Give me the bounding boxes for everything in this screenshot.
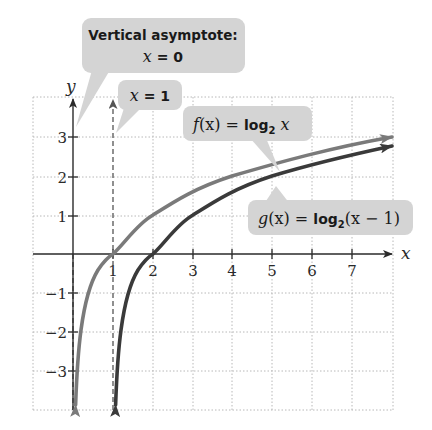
svg-text:−2: −2	[45, 324, 67, 342]
x-tick-labels: 1 2 3 4 5 6 7	[108, 262, 357, 280]
svg-text:2: 2	[57, 169, 67, 187]
svg-text:3: 3	[57, 129, 67, 147]
svg-text:1: 1	[57, 208, 67, 226]
x-axis-label: x	[401, 243, 411, 263]
callout-x1-equation: x = 1	[130, 86, 170, 105]
svg-text:4: 4	[227, 262, 237, 280]
callout-asymptote-title: Vertical asymptote:	[88, 27, 237, 43]
svg-text:−1: −1	[45, 285, 67, 303]
callout-g-equation: g(x) = log2(x − 1)	[258, 209, 400, 230]
y-axis-label: y	[65, 76, 76, 96]
callout-asymptote-equation: x = 0	[143, 47, 184, 66]
svg-text:5: 5	[267, 262, 277, 280]
svg-text:7: 7	[347, 262, 357, 280]
callout-g-label: g(x) = log2(x − 1)	[248, 186, 413, 235]
callout-x-equals-1: x = 1	[116, 80, 182, 133]
svg-text:2: 2	[148, 262, 158, 280]
svg-text:3: 3	[188, 262, 198, 280]
log-function-graph: x y 1 2 3 4 5 6 7 −3 −2 −1 1 2 3	[0, 0, 432, 430]
y-tick-labels: −3 −2 −1 1 2 3	[45, 129, 67, 381]
callout-f-equation: f(x) = log2 x	[192, 115, 290, 136]
svg-text:6: 6	[307, 262, 317, 280]
callout-f-label: f(x) = log2 x	[183, 106, 312, 172]
svg-text:−3: −3	[45, 363, 67, 381]
